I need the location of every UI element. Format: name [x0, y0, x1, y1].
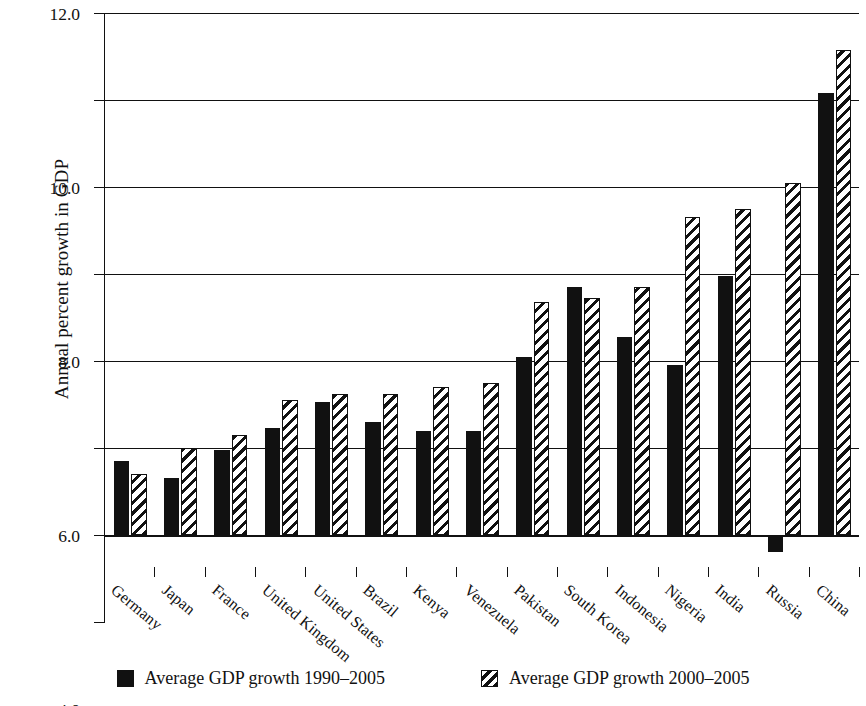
bar [433, 387, 448, 535]
bar [232, 435, 247, 535]
legend-label: Average GDP growth 1990–2005 [145, 668, 385, 689]
bar-group [659, 13, 709, 622]
bar [818, 93, 833, 535]
x-axis-tick [406, 567, 407, 577]
x-axis-tick [809, 567, 810, 577]
x-axis-tick [305, 567, 306, 577]
bar-group [709, 13, 759, 622]
bar [836, 50, 851, 535]
bar [383, 394, 398, 535]
y-axis-tick-label: 12.0 [49, 4, 80, 25]
y-axis-tick: 0.0 [94, 535, 105, 536]
bar [718, 276, 733, 535]
bar [466, 431, 481, 535]
x-axis-tick [507, 567, 508, 577]
legend-swatch-solid-icon [117, 670, 134, 687]
y-axis-tick: -2.0 [94, 622, 105, 623]
bar-group [206, 13, 256, 622]
y-axis-tick: 8.0 [94, 187, 105, 188]
x-axis-tick [104, 567, 105, 577]
y-axis-tick-label: 4.0 [58, 700, 80, 706]
bar [114, 461, 129, 535]
bar [214, 450, 229, 535]
bar [265, 428, 280, 535]
bar [785, 183, 800, 535]
x-axis-tick [859, 567, 860, 577]
x-axis-tick [557, 567, 558, 577]
y-axis-title: Annual percent growth in GDP [51, 109, 73, 449]
x-axis-tick [708, 567, 709, 577]
bar [584, 298, 599, 535]
bar-group [457, 13, 507, 622]
x-axis-tick [456, 567, 457, 577]
bar [131, 474, 146, 535]
y-axis-tick-label: 6.0 [58, 526, 80, 547]
bar [483, 383, 498, 535]
y-axis-tick: 4.0 [94, 361, 105, 362]
bar [516, 357, 531, 535]
bar-group [558, 13, 608, 622]
y-axis-tick: 10.0 [94, 100, 105, 101]
bar-group [256, 13, 306, 622]
bar-group [608, 13, 658, 622]
bar [617, 337, 632, 535]
y-axis-tick: 12.0 [94, 13, 105, 14]
x-axis-tick [758, 567, 759, 577]
bar [282, 400, 297, 535]
bar-group [105, 13, 155, 622]
bar-group [155, 13, 205, 622]
x-axis-tick [356, 567, 357, 577]
plot-area: -2.00.02.04.06.08.010.012.0 [104, 13, 859, 622]
bar [735, 209, 750, 535]
bar-group [508, 13, 558, 622]
bar [315, 402, 330, 535]
bar-group [759, 13, 809, 622]
plot-inner: -2.00.02.04.06.08.010.012.0 [105, 13, 859, 622]
x-axis-tick [658, 567, 659, 577]
bar [634, 287, 649, 535]
bar [164, 478, 179, 535]
y-axis-tick-label: 10.0 [49, 178, 80, 199]
bar [768, 535, 783, 552]
y-axis-tick: 2.0 [94, 448, 105, 449]
x-axis-tick [607, 567, 608, 577]
legend-swatch-hatch-icon [481, 670, 498, 687]
bar [332, 394, 347, 535]
bar-group [306, 13, 356, 622]
bar-group [407, 13, 457, 622]
bar-group [810, 13, 860, 622]
gdp-growth-bar-chart: Annual percent growth in GDP -2.00.02.04… [0, 0, 866, 706]
legend-label: Average GDP growth 2000–2005 [509, 668, 749, 689]
bar [685, 217, 700, 535]
chart-legend: Average GDP growth 1990–2005Average GDP … [0, 668, 866, 689]
legend-item: Average GDP growth 1990–2005 [117, 668, 385, 689]
x-axis-tick [205, 567, 206, 577]
bar-group [357, 13, 407, 622]
x-axis-tick [154, 567, 155, 577]
bar [567, 287, 582, 535]
x-axis-tick [255, 567, 256, 577]
y-axis-tick-label: 8.0 [58, 352, 80, 373]
bar [667, 365, 682, 535]
legend-item: Average GDP growth 2000–2005 [481, 668, 749, 689]
bar [534, 302, 549, 535]
y-axis-tick: 6.0 [94, 274, 105, 275]
bar [365, 422, 380, 535]
bar [416, 431, 431, 535]
bar [181, 448, 196, 535]
